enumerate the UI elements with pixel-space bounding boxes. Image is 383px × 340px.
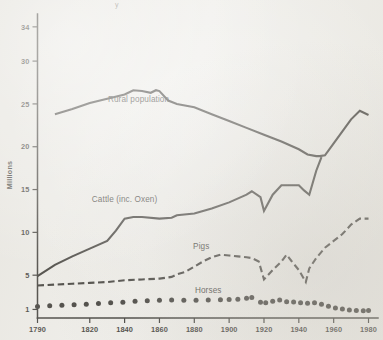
corner-mark: y: [115, 1, 119, 9]
series-annotation-label: Pigs: [193, 242, 209, 251]
data-point-marker: [120, 300, 125, 305]
data-point-marker: [249, 295, 254, 300]
y-tick-label: 25: [21, 100, 29, 109]
data-point-marker: [35, 304, 40, 309]
series-path: [55, 90, 369, 156]
data-point-marker: [108, 300, 113, 305]
data-point-marker: [218, 297, 223, 302]
data-point-marker: [354, 308, 359, 313]
chart-canvas: 1510152025303417901820184018601880190019…: [0, 0, 383, 340]
data-point-marker: [270, 299, 275, 304]
data-point-marker: [145, 298, 150, 303]
data-point-marker: [96, 301, 101, 306]
data-point-marker: [258, 300, 263, 305]
data-point-marker: [169, 298, 174, 303]
series-layer: [35, 90, 371, 313]
data-point-marker: [235, 297, 240, 302]
series-path: [38, 219, 369, 286]
x-tick-label: 1900: [221, 325, 238, 334]
data-point-marker: [84, 302, 89, 307]
data-point-marker: [72, 302, 77, 307]
x-tick-label: 1820: [81, 325, 98, 334]
x-tick-label: 1840: [116, 325, 133, 334]
y-tick-label: 5: [25, 271, 29, 280]
data-point-marker: [361, 308, 366, 313]
data-point-marker: [194, 298, 199, 303]
x-tick-label: 1860: [151, 325, 168, 334]
x-tick-label: 1960: [325, 325, 342, 334]
data-point-marker: [47, 303, 52, 308]
data-point-marker: [291, 299, 296, 304]
data-point-marker: [157, 298, 162, 303]
data-point-marker: [347, 308, 352, 313]
x-tick-label: 1790: [29, 325, 46, 334]
data-point-marker: [227, 297, 232, 302]
series-labels: Rural populationCattle (inc. Oxen)PigsHo…: [92, 95, 222, 295]
chart-figure: 1510152025303417901820184018601880190019…: [0, 0, 383, 340]
data-point-marker: [340, 307, 345, 312]
y-tick-label: 20: [21, 142, 29, 151]
data-point-marker: [263, 300, 268, 305]
x-tick-label: 1940: [290, 325, 307, 334]
series-annotation-label: Cattle (inc. Oxen): [92, 195, 158, 204]
y-tick-label: 30: [21, 57, 29, 66]
data-point-marker: [312, 300, 317, 305]
series-annotation-label: Horses: [195, 286, 222, 295]
y-axis-title: Millions: [5, 161, 14, 189]
data-point-marker: [244, 296, 249, 301]
x-tick-label: 1920: [256, 325, 273, 334]
data-point-marker: [133, 299, 138, 304]
data-point-marker: [305, 301, 310, 306]
data-point-marker: [181, 298, 186, 303]
data-point-marker: [206, 298, 211, 303]
data-point-marker: [298, 300, 303, 305]
y-tick-label: 1: [25, 305, 29, 314]
series-path: [38, 157, 322, 276]
series-annotation-label: Rural population: [108, 95, 170, 104]
data-point-marker: [333, 305, 338, 310]
x-tick-label: 1980: [360, 325, 377, 334]
y-tick-label: 15: [21, 185, 29, 194]
data-point-marker: [319, 302, 324, 307]
x-tick-label: 1880: [186, 325, 203, 334]
data-point-marker: [59, 303, 64, 308]
data-point-marker: [366, 308, 371, 313]
data-point-marker: [326, 304, 331, 309]
y-tick-label: 10: [21, 228, 29, 237]
data-point-marker: [284, 299, 289, 304]
y-tick-label: 34: [21, 23, 30, 32]
data-point-marker: [277, 298, 282, 303]
